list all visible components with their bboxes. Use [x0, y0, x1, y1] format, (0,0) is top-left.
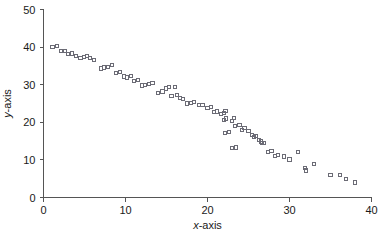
data-point-marker: [79, 56, 82, 59]
data-point-marker: [59, 49, 62, 52]
data-point-marker: [225, 117, 228, 120]
x-axis-ticks: 010203040: [40, 198, 377, 216]
data-point-marker: [231, 147, 234, 150]
data-point-marker: [51, 46, 54, 49]
data-point-marker: [219, 112, 222, 115]
data-point-marker: [67, 53, 70, 56]
data-point-marker: [270, 150, 273, 153]
y-axis-title: y-axis: [1, 89, 13, 119]
data-point-marker: [193, 100, 196, 103]
y-tick-label: 40: [23, 41, 35, 53]
data-point-marker: [132, 79, 135, 82]
data-point-marker: [234, 124, 237, 127]
data-point-marker: [296, 151, 299, 154]
x-tick-label: 0: [40, 204, 46, 216]
data-point-marker: [85, 55, 88, 58]
data-point-marker: [75, 55, 78, 58]
data-point-marker: [82, 55, 85, 58]
scatter-plot-figure: 01020304050 010203040 x-axis y-axis: [0, 0, 383, 238]
data-point-marker: [55, 44, 58, 47]
y-tick-label: 50: [23, 4, 35, 16]
data-point-marker: [118, 70, 121, 73]
data-point-marker: [173, 85, 176, 88]
y-tick-label: 30: [23, 79, 35, 91]
y-axis-ticks: 01020304050: [23, 4, 43, 204]
data-point-marker: [344, 177, 347, 180]
data-point-marker: [288, 158, 291, 161]
data-point-marker: [329, 174, 332, 177]
data-point-marker: [313, 162, 316, 165]
data-point-marker: [201, 103, 204, 106]
data-point-marker: [111, 63, 114, 66]
data-point-marker: [170, 94, 173, 97]
plot-canvas: 01020304050 010203040 x-axis y-axis: [0, 0, 383, 238]
data-point-marker: [176, 93, 179, 96]
data-point-marker: [99, 67, 102, 70]
data-point-marker: [238, 123, 241, 126]
data-point-marker: [140, 84, 143, 87]
data-point-marker: [89, 56, 92, 59]
x-tick-label: 20: [201, 204, 213, 216]
data-point-marker: [136, 78, 139, 81]
data-point-marker: [262, 141, 265, 144]
data-point-marker: [304, 169, 307, 172]
x-tick-label: 40: [365, 204, 377, 216]
data-point-marker: [243, 127, 246, 130]
data-point-marker: [144, 83, 147, 86]
data-point-marker: [107, 65, 110, 68]
y-tick-label: 20: [23, 116, 35, 128]
data-point-marker: [216, 110, 219, 113]
data-point-marker: [231, 120, 234, 123]
x-tick-label: 30: [283, 204, 295, 216]
data-point-marker: [148, 82, 151, 85]
data-point-marker: [339, 174, 342, 177]
data-point-marker: [130, 74, 133, 77]
data-point-marker: [178, 97, 181, 100]
data-point-marker: [282, 155, 285, 158]
data-point-marker: [227, 130, 230, 133]
data-point-marker: [209, 105, 212, 108]
x-axis-title: x-axis: [192, 219, 222, 231]
data-point-marker: [151, 82, 154, 85]
data-point-marker: [103, 66, 106, 69]
data-point-marker: [206, 106, 209, 109]
x-tick-label: 10: [119, 204, 131, 216]
data-point-marker: [273, 155, 276, 158]
y-tick-label: 10: [23, 154, 35, 166]
data-point-marker: [114, 71, 117, 74]
data-point-marker: [267, 150, 270, 153]
data-point-marker: [224, 109, 227, 112]
data-point-marker: [185, 102, 188, 105]
data-point-marker: [190, 101, 193, 104]
data-point-marker: [212, 110, 215, 113]
data-point-markers: [51, 44, 357, 184]
data-point-marker: [232, 116, 235, 119]
data-point-marker: [71, 52, 74, 55]
data-point-marker: [63, 50, 66, 53]
data-point-marker: [161, 90, 164, 93]
data-point-marker: [247, 130, 250, 133]
data-point-marker: [181, 97, 184, 100]
data-point-marker: [122, 75, 125, 78]
data-point-marker: [223, 131, 226, 134]
data-point-marker: [198, 104, 201, 107]
data-point-marker: [157, 91, 160, 94]
data-point-marker: [164, 87, 167, 90]
data-point-marker: [354, 181, 357, 184]
data-point-marker: [167, 86, 170, 89]
data-point-marker: [276, 154, 279, 157]
data-point-marker: [235, 146, 238, 149]
y-tick-label: 0: [29, 192, 35, 204]
data-point-marker: [93, 58, 96, 61]
data-point-marker: [126, 76, 129, 79]
axes: [44, 10, 372, 198]
